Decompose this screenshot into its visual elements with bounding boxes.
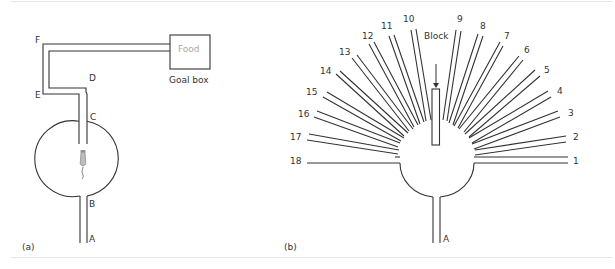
arm-label-2: 2 [573, 132, 579, 142]
arm-label-11: 11 [381, 21, 392, 31]
arm-label-8: 8 [480, 21, 486, 31]
stem-label-A: A [443, 234, 450, 244]
label-D: D [89, 73, 96, 83]
blocked-arm [432, 89, 440, 145]
arm-label-1: 1 [573, 156, 579, 166]
arm-5 [465, 70, 540, 137]
arm-9 [443, 30, 461, 121]
panel-a: Food Goal box F E D C B A (a) [22, 35, 210, 252]
panel-b-caption: (b) [284, 242, 297, 252]
panel-b: A Block [284, 14, 579, 252]
arm-label-13: 13 [339, 47, 350, 57]
arm-label-3: 3 [568, 108, 574, 118]
arm-13 [352, 55, 413, 131]
goal-box-label: Goal box [169, 75, 209, 85]
arm-label-16: 16 [298, 109, 310, 119]
block-label: Block [424, 31, 449, 41]
panel-a-caption: (a) [22, 242, 35, 252]
maze-figure: Food Goal box F E D C B A (a) A [0, 0, 615, 269]
arm-label-15: 15 [306, 87, 317, 97]
arm-label-6: 6 [524, 45, 530, 55]
arm-label-14: 14 [320, 66, 332, 76]
start-circle [35, 121, 118, 197]
runway-inner [49, 51, 170, 144]
rat-icon [80, 151, 86, 179]
arm-label-10: 10 [403, 14, 415, 24]
arm-label-4: 4 [557, 86, 563, 96]
label-E: E [35, 90, 41, 100]
label-C: C [90, 112, 96, 122]
label-A: A [89, 234, 96, 244]
arm-label-9: 9 [457, 14, 463, 24]
runway-outer [43, 44, 170, 144]
arm-label-7: 7 [504, 31, 510, 41]
arm-2 [475, 136, 566, 155]
center-arena [400, 163, 474, 197]
label-F: F [35, 35, 40, 45]
block-arrow-icon [433, 83, 439, 88]
arm-label-18: 18 [290, 156, 302, 166]
goal-box-food-text: Food [178, 44, 200, 54]
arm-label-5: 5 [544, 65, 550, 75]
arm-8 [449, 34, 483, 125]
arm-label-12: 12 [362, 31, 373, 41]
arm-label-17: 17 [290, 132, 301, 142]
label-B: B [89, 199, 95, 209]
